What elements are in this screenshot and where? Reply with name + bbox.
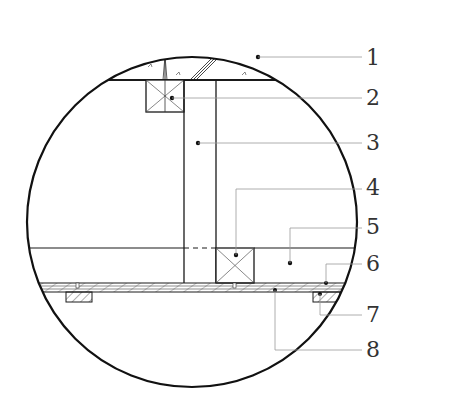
label-8: 8 bbox=[366, 339, 380, 361]
label-5: 5 bbox=[366, 216, 380, 238]
batten-block-left bbox=[66, 292, 92, 302]
callout-circle bbox=[27, 57, 357, 387]
label-6: 6 bbox=[366, 253, 380, 275]
concrete-slab bbox=[20, 20, 380, 104]
label-7: 7 bbox=[366, 304, 380, 326]
label-1: 1 bbox=[366, 47, 380, 69]
label-4: 4 bbox=[366, 177, 380, 199]
label-3: 3 bbox=[366, 132, 380, 154]
label-2: 2 bbox=[366, 87, 380, 109]
vertical-hanger-stud bbox=[184, 80, 216, 283]
bottom-timber-block bbox=[216, 248, 254, 283]
detail-diagram bbox=[0, 0, 457, 415]
top-timber-block bbox=[146, 80, 184, 112]
